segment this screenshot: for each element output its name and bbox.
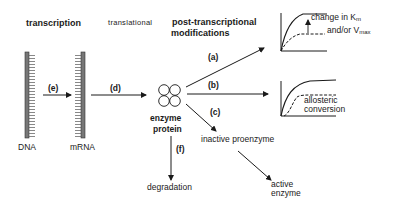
header-transcription: transcription (26, 18, 81, 28)
header-post-transcriptional: post-transcriptional (172, 17, 257, 27)
graph-top-label-km: change in Km (311, 13, 361, 23)
node-inactive-proenzyme: inactive proenzyme (201, 135, 274, 145)
km-prefix: change in K (311, 12, 356, 22)
label-e: (e) (48, 84, 58, 94)
node-enzyme: enzyme (150, 114, 181, 124)
node-dna: DNA (18, 143, 36, 153)
label-d: (d) (110, 84, 121, 94)
enzyme-protein-icon (159, 85, 181, 107)
vmax-sub: max (359, 29, 370, 35)
header-modifications: modifications (171, 28, 230, 38)
node-protein: protein (153, 125, 182, 135)
node-degradation: degradation (147, 183, 192, 193)
arrow-activation (238, 151, 271, 180)
graph-bottom-label-conversion: conversion (304, 105, 345, 115)
label-f: (f) (176, 145, 185, 155)
label-b: (b) (208, 81, 219, 91)
label-a: (a) (208, 53, 218, 63)
node-enzyme-active: enzyme (271, 189, 301, 199)
vmax-prefix: and/or V (327, 25, 359, 35)
header-translational: translational (108, 19, 152, 28)
dna-strand (25, 52, 35, 138)
arrow-a (186, 48, 264, 87)
node-mrna: mRNA (70, 143, 95, 153)
mrna-strand (75, 52, 85, 138)
graph-top-label-vmax: and/or Vmax (327, 26, 370, 36)
km-sub: m (356, 16, 361, 22)
label-c: (c) (210, 108, 220, 118)
